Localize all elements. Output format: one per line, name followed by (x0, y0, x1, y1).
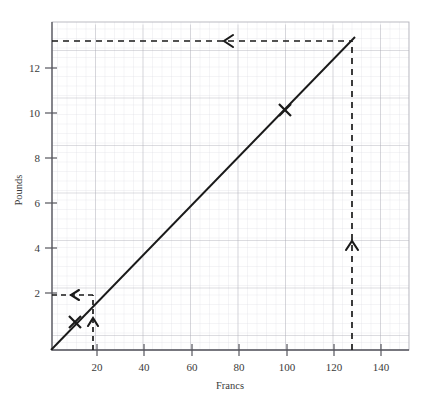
plot-grid (52, 22, 409, 350)
francs-pounds-conversion-chart: 2 4 6 8 10 12 20 40 60 80 100 120 140 Fr… (0, 0, 430, 399)
x-tick-label-40: 40 (139, 361, 151, 373)
y-tick-label-8: 8 (35, 152, 41, 164)
y-tick-label-12: 12 (29, 62, 40, 74)
x-tick-label-20: 20 (92, 361, 104, 373)
y-tick-label-6: 6 (35, 197, 41, 209)
y-axis-title: Pounds (13, 175, 24, 206)
x-tick-label-60: 60 (187, 361, 199, 373)
y-tick-label-2: 2 (35, 287, 41, 299)
y-tick-label-4: 4 (35, 242, 41, 254)
chart-svg: 2 4 6 8 10 12 20 40 60 80 100 120 140 Fr… (0, 0, 430, 399)
x-axis-title: Francs (216, 380, 244, 391)
x-tick-label-80: 80 (234, 361, 246, 373)
x-tick-label-120: 120 (326, 361, 343, 373)
y-tick-label-10: 10 (29, 107, 41, 119)
x-tick-label-140: 140 (373, 361, 390, 373)
x-tick-label-100: 100 (279, 361, 296, 373)
